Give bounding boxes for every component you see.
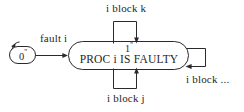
transition-i-block-k[interactable] <box>114 22 139 44</box>
fsm-diagram: fault i i block k i block j i block ... … <box>0 0 244 112</box>
state-node-0-id: 0'' <box>9 49 37 62</box>
transition-label-i-block-k: i block k <box>106 3 146 14</box>
state-node-1-body-text: PROC i IS FAULTY <box>69 54 189 66</box>
transition-label-i-block-dots: i block ... <box>186 74 229 85</box>
transition-i-block-j[interactable] <box>114 68 139 89</box>
transition-label-fault-i: fault i <box>40 33 67 44</box>
state-node-1-prime: '' <box>130 42 133 50</box>
state-node-0-prime: '' <box>24 48 27 57</box>
transition-fault-i[interactable] <box>36 53 68 58</box>
transition-label-i-block-j: i block j <box>107 93 145 104</box>
